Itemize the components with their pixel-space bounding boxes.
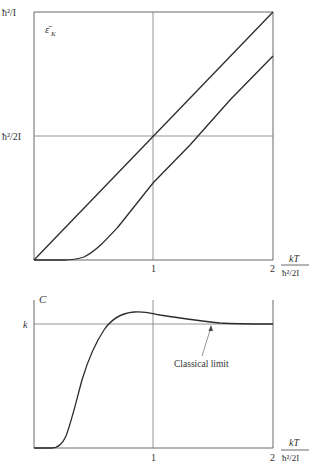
- heat-capacity-plot: Classical limit C k 1 2 kT ħ²/2I: [23, 293, 309, 463]
- bottom-ylabel: C: [39, 293, 47, 305]
- figure: ħ²/I ħ²/2I ε̄ K 1 2 kT ħ²/2I Classical l…: [0, 0, 316, 463]
- rotational-energy-curve: [34, 56, 273, 260]
- top-x-tick-1: 1: [151, 263, 156, 274]
- top-y-max-label: ħ²/I: [2, 7, 16, 18]
- bottom-x-tick-2: 2: [270, 452, 275, 463]
- top-x-unit-den: ħ²/2I: [282, 268, 299, 278]
- bottom-x-unit-den: ħ²/2I: [282, 453, 299, 463]
- top-x-unit-num: kT: [289, 253, 300, 264]
- classical-limit-label: Classical limit: [174, 359, 229, 369]
- top-ylabel-sub: K: [50, 30, 56, 38]
- classical-limit-arrow: [202, 327, 211, 356]
- top-x-tick-2: 2: [270, 263, 275, 274]
- top-y-mid-label: ħ²/2I: [2, 131, 21, 142]
- bottom-x-unit-num: kT: [289, 437, 300, 448]
- bottom-y-k-label: k: [23, 319, 28, 330]
- heat-capacity-curve: [34, 312, 273, 448]
- arrow-head-icon: [209, 325, 214, 331]
- bottom-x-tick-1: 1: [151, 452, 156, 463]
- energy-plot: ħ²/I ħ²/2I ε̄ K 1 2 kT ħ²/2I: [2, 7, 309, 278]
